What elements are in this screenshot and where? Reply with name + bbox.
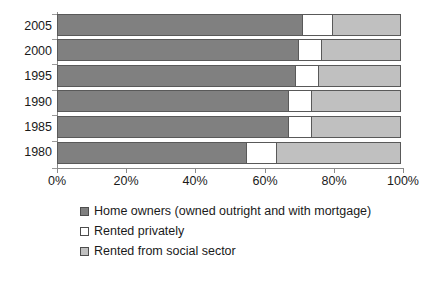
legend-item-rented-social-sector: Rented from social sector [80,241,410,261]
x-axis-tick-0 [57,168,58,173]
x-axis-label-0: 0% [48,175,66,188]
legend-item-home-owners: Home owners (owned outright and with mor… [80,201,410,221]
x-axis-label-60: 60% [252,175,277,188]
y-axis-label-1985: 1985 [6,121,52,134]
x-axis-label-40: 40% [182,175,207,188]
y-axis-label-1995: 1995 [6,70,52,83]
legend-label-home-owners: Home owners (owned outright and with mor… [94,205,371,218]
table-row [57,116,403,138]
y-axis-label-2005: 2005 [6,20,52,33]
x-axis-tick-60 [265,168,266,173]
bar-segment-rented-social-2000 [321,39,401,61]
table-row [57,14,403,36]
bar-segment-rented-social-1980 [276,142,401,164]
y-axis-labels: 2005 2000 1995 1990 1985 1980 [0,14,52,167]
white-swatch-icon [80,227,89,236]
y-axis-label-1980: 1980 [6,146,52,159]
bar-segment-home-owners-1985 [57,116,289,138]
bar-segment-rented-privately-2005 [302,14,333,36]
bar-segment-rented-social-2005 [332,14,401,36]
bar-segment-rented-privately-1995 [295,65,319,87]
x-axis-label-80: 80% [321,175,346,188]
x-axis-line [57,168,404,169]
bar-segment-home-owners-1990 [57,90,289,112]
y-axis-label-1990: 1990 [6,96,52,109]
bar-segment-home-owners-2005 [57,14,303,36]
bar-segment-rented-privately-2000 [298,39,322,61]
table-row [57,142,403,164]
legend-item-rented-privately: Rented privately [80,221,410,241]
y-axis-label-2000: 2000 [6,45,52,58]
bar-segment-home-owners-2000 [57,39,299,61]
bar-segment-rented-privately-1980 [246,142,277,164]
x-axis-tick-40 [195,168,196,173]
bar-segment-rented-social-1990 [311,90,401,112]
x-axis-label-20: 20% [113,175,138,188]
table-row [57,39,403,61]
x-axis-tick-80 [334,168,335,173]
x-axis-tick-100 [403,168,404,173]
chart-legend: Home owners (owned outright and with mor… [80,201,410,261]
legend-label-rented-privately: Rented privately [94,225,184,238]
bar-segment-rented-privately-1990 [288,90,312,112]
table-row [57,90,403,112]
legend-label-rented-social-sector: Rented from social sector [94,245,236,258]
plot-area [57,14,403,167]
bar-segment-home-owners-1995 [57,65,296,87]
bar-segment-home-owners-1980 [57,142,247,164]
x-axis-label-100: 100% [387,175,419,188]
stacked-bar-chart: 2005 2000 1995 1990 1985 1980 [0,0,438,286]
bar-segment-rented-social-1985 [311,116,401,138]
bar-segment-rented-social-1995 [318,65,401,87]
table-row [57,65,403,87]
light-gray-swatch-icon [80,247,89,256]
dark-gray-swatch-icon [80,207,89,216]
bar-segment-rented-privately-1985 [288,116,312,138]
x-axis-tick-20 [126,168,127,173]
